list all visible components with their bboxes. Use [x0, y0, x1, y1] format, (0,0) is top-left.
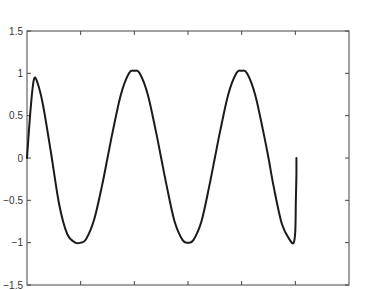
x-axis: [81, 31, 296, 285]
y-tick-label: 0.5: [9, 110, 23, 121]
series-layer: [27, 71, 296, 244]
y-tick-label: −1: [12, 237, 24, 248]
y-tick-label: 0: [17, 153, 23, 164]
line-chart: 1.510.50−0.5−1−1.5: [0, 0, 374, 290]
y-tick-label: −0.5: [3, 195, 23, 206]
y-tick-label: −1.5: [3, 280, 23, 290]
axes-box: [27, 31, 349, 285]
series-line-signal: [27, 71, 296, 244]
y-tick-label: 1: [17, 68, 23, 79]
y-tick-label: 1.5: [9, 26, 23, 37]
plot-frame: [27, 31, 349, 285]
